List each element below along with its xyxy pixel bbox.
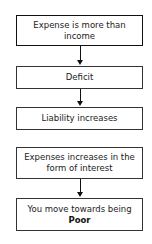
step-label: Liability increases [41, 113, 117, 124]
step-expenses-increase-interest: Expenses increases in the form of intere… [16, 147, 143, 179]
arrow-down-icon [77, 89, 83, 107]
arrow-down-icon [77, 179, 83, 198]
step-label: Expenses increases in the form of intere… [21, 152, 138, 174]
step-label: You move towards being Poor [21, 204, 138, 226]
step-expense-more-than-income: Expense is more than income [16, 15, 143, 46]
step-move-towards-poor: You move towards being Poor [16, 198, 143, 231]
step-label: Deficit [66, 72, 94, 83]
step-deficit: Deficit [16, 66, 143, 89]
arrow-down-icon [77, 46, 83, 66]
step-liability-increases: Liability increases [16, 107, 143, 130]
step-label: Expense is more than income [21, 20, 138, 42]
emphasis-poor: Poor [68, 215, 90, 225]
